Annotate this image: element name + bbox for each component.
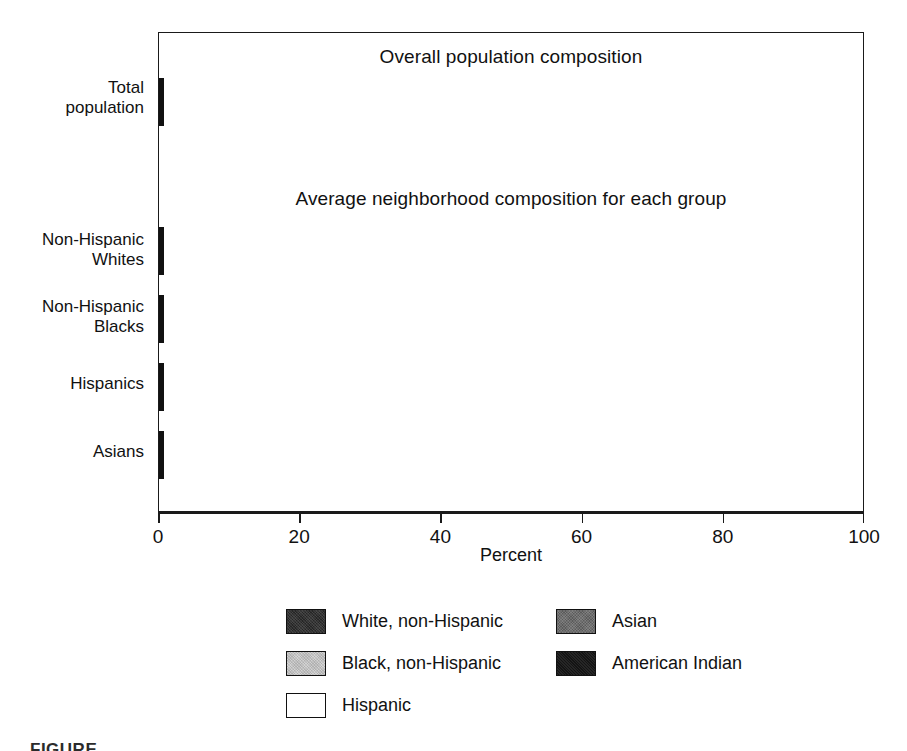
x-tick-0 — [158, 512, 160, 523]
bar-total-population — [159, 78, 164, 126]
x-tick-80 — [723, 512, 725, 523]
y-label-line1: Non-Hispanic — [0, 297, 144, 317]
y-label-line1: Hispanics — [0, 374, 144, 394]
segment-asian — [163, 363, 164, 411]
legend-label-black-non-hispanic: Black, non-Hispanic — [342, 653, 501, 674]
y-label-line2: Whites — [0, 250, 144, 270]
legend-swatch-white-non-hispanic — [286, 609, 326, 634]
legend-swatch-hispanic — [286, 693, 326, 718]
plot-area: Overall population composition Average n… — [158, 32, 864, 512]
legend-item-asian: Asian — [556, 600, 742, 642]
legend-label-asian: Asian — [612, 611, 657, 632]
legend-column-right: Asian American Indian — [556, 600, 742, 684]
segment-asian — [163, 78, 164, 126]
legend-label-hispanic: Hispanic — [342, 695, 411, 716]
bar-non-hispanic-whites — [159, 227, 164, 275]
y-label-line2: Blacks — [0, 317, 144, 337]
figure-caption: FIGURE — [30, 740, 97, 751]
panel-title-overall-population: Overall population composition — [159, 46, 863, 68]
x-tick-60 — [582, 512, 584, 523]
bar-non-hispanic-blacks — [159, 295, 164, 343]
y-label-non-hispanic-blacks: Non-Hispanic Blacks — [0, 297, 144, 337]
x-tick-100 — [863, 512, 865, 523]
legend-column-left: White, non-Hispanic Black, non-Hispanic … — [286, 600, 503, 726]
y-label-line1: Non-Hispanic — [0, 230, 144, 250]
y-label-line1: Total — [0, 78, 144, 98]
x-tick-40 — [440, 512, 442, 523]
bar-hispanics — [159, 363, 164, 411]
bar-asians — [159, 431, 164, 479]
y-label-asians: Asians — [0, 442, 144, 462]
x-axis: 0 20 40 60 80 100 — [158, 512, 864, 526]
segment-american-indian — [163, 295, 164, 343]
panel-title-average-neighborhood: Average neighborhood composition for eac… — [159, 188, 863, 210]
legend-item-white-non-hispanic: White, non-Hispanic — [286, 600, 503, 642]
legend-label-white-non-hispanic: White, non-Hispanic — [342, 611, 503, 632]
y-label-non-hispanic-whites: Non-Hispanic Whites — [0, 230, 144, 270]
legend-item-black-non-hispanic: Black, non-Hispanic — [286, 642, 503, 684]
x-tick-20 — [299, 512, 301, 523]
legend-item-american-indian: American Indian — [556, 642, 742, 684]
legend: White, non-Hispanic Black, non-Hispanic … — [286, 600, 846, 720]
legend-swatch-asian — [556, 609, 596, 634]
y-label-line2: population — [0, 98, 144, 118]
legend-item-hispanic: Hispanic — [286, 684, 503, 726]
x-axis-line — [158, 512, 864, 514]
y-label-total-population: Total population — [0, 78, 144, 118]
legend-swatch-american-indian — [556, 651, 596, 676]
x-axis-title: Percent — [158, 545, 864, 566]
legend-label-american-indian: American Indian — [612, 653, 742, 674]
y-label-hispanics: Hispanics — [0, 374, 144, 394]
y-label-line1: Asians — [0, 442, 144, 462]
legend-swatch-black-non-hispanic — [286, 651, 326, 676]
segment-asian — [163, 227, 164, 275]
y-axis-labels: Total population Non-Hispanic Whites Non… — [0, 32, 148, 512]
segment-asian — [163, 431, 164, 479]
